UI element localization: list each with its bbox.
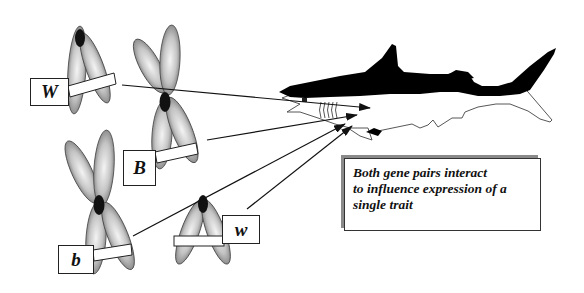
chromosome-B	[127, 25, 204, 170]
gene-label-b: b	[58, 245, 94, 274]
gene-label-w: w	[222, 215, 260, 244]
centromere-icon	[160, 92, 171, 112]
callout-line: single trait	[353, 197, 534, 213]
shark-illustration	[279, 44, 556, 140]
callout-box: Both gene pairs interact to influence ex…	[344, 158, 541, 231]
gene-label-text: B	[133, 157, 146, 179]
arrow-B	[207, 115, 357, 140]
centromere-icon	[94, 195, 105, 215]
diagram-canvas: W B b w Both gene pairs interact to infl…	[0, 0, 584, 293]
callout-line: Both gene pairs interact	[353, 165, 534, 181]
chromosome-W	[65, 25, 116, 114]
gene-label-B: B	[123, 150, 156, 186]
centromere-icon	[75, 29, 85, 47]
gene-label-text: b	[71, 249, 81, 271]
gene-label-text: w	[235, 219, 248, 241]
gene-label-text: W	[41, 81, 58, 103]
callout-line: to influence expression of a	[353, 181, 534, 197]
gene-label-W: W	[30, 78, 69, 106]
